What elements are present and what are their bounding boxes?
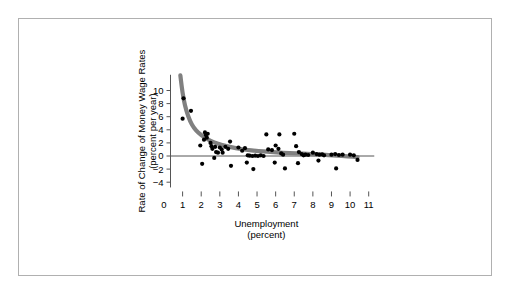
- data-point: [181, 96, 185, 100]
- data-point: [277, 132, 281, 136]
- data-point: [226, 147, 230, 151]
- data-point: [264, 132, 268, 136]
- x-tick-label: 7: [292, 199, 297, 210]
- data-point: [266, 147, 270, 151]
- data-point: [334, 166, 338, 170]
- y-tick-label: −4: [153, 177, 164, 188]
- data-point: [306, 153, 310, 157]
- x-tick-label: 6: [273, 199, 278, 210]
- x-tick-label: 9: [329, 199, 334, 210]
- data-point: [329, 153, 333, 157]
- data-point: [273, 160, 277, 164]
- x-tick-label: 8: [310, 199, 315, 210]
- data-point: [221, 151, 225, 155]
- y-tick-label: 8: [158, 98, 163, 109]
- chart-canvas: −4−2024681001234567891011Unemployment(pe…: [0, 0, 512, 294]
- data-point: [311, 151, 315, 155]
- x-tick-label: 1: [180, 199, 185, 210]
- data-point: [206, 132, 210, 136]
- data-point: [243, 146, 247, 150]
- x-tick-label: 2: [199, 199, 204, 210]
- data-point: [292, 132, 296, 136]
- data-point: [322, 153, 326, 157]
- y-tick-label: 6: [158, 111, 163, 122]
- data-point: [274, 143, 278, 147]
- data-point: [281, 153, 285, 157]
- data-point: [212, 156, 216, 160]
- data-point: [181, 117, 185, 121]
- data-point: [202, 138, 206, 142]
- x-axis-title: Unemployment: [234, 218, 298, 229]
- data-point: [213, 145, 217, 149]
- x-tick-label: 4: [236, 199, 241, 210]
- data-point: [352, 153, 356, 157]
- data-point: [228, 139, 232, 143]
- data-point: [251, 167, 255, 171]
- data-point: [341, 153, 345, 157]
- data-point: [294, 144, 298, 148]
- x-tick-label: 11: [364, 199, 374, 210]
- x-axis-subtitle: (percent): [247, 229, 285, 240]
- y-tick-label: 0: [158, 150, 163, 161]
- data-point: [337, 153, 341, 157]
- data-point: [216, 151, 220, 155]
- y-axis-subtitle: (percent per year): [147, 93, 158, 169]
- x-tick-label: 3: [217, 199, 222, 210]
- fitted-phillips-curve: [180, 75, 357, 157]
- data-point: [283, 166, 287, 170]
- data-point: [198, 143, 202, 147]
- y-axis-title: Rate of Change of Money Wage Rates: [136, 49, 147, 212]
- data-point: [355, 158, 359, 162]
- data-point: [348, 153, 352, 157]
- data-point: [236, 145, 240, 149]
- y-tick-label: 4: [158, 124, 163, 135]
- data-point: [261, 154, 265, 158]
- data-point: [316, 158, 320, 162]
- data-point: [229, 164, 233, 168]
- x-tick-label: 0: [161, 199, 166, 210]
- data-point: [200, 162, 204, 166]
- data-point: [270, 148, 274, 152]
- x-tick-label: 10: [345, 199, 356, 210]
- x-tick-label: 5: [254, 199, 259, 210]
- data-point: [245, 160, 249, 164]
- data-point: [333, 152, 337, 156]
- data-point: [296, 161, 300, 165]
- data-point: [276, 147, 280, 151]
- y-tick-label: 2: [158, 137, 163, 148]
- data-point: [189, 109, 193, 113]
- phillips-curve-chart: −4−2024681001234567891011Unemployment(pe…: [0, 0, 512, 294]
